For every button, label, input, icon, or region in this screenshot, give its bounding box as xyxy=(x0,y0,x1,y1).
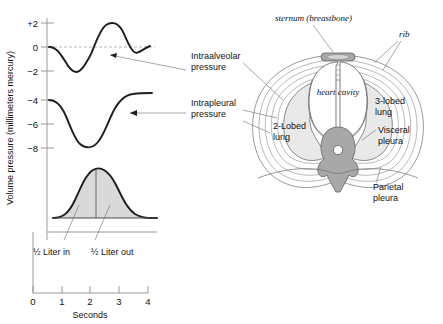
x-tick-label: 3 xyxy=(116,296,121,307)
intrapleural-to-diagram-leader xyxy=(243,110,277,118)
x-tick-label: 0 xyxy=(30,296,35,307)
tidal-volume-plot xyxy=(53,168,157,218)
parietal-pleura-label-line2: pleura xyxy=(373,193,398,203)
thorax-diagram-group: sternum (breastbone) rib heart cavity 2-… xyxy=(243,13,423,203)
lung-right-label-line2: lung xyxy=(375,107,392,117)
x-tick-label: 2 xyxy=(87,296,92,307)
x-tick-label: 4 xyxy=(145,296,150,307)
rib-label: rib xyxy=(399,29,410,39)
x-axis-label: Seconds xyxy=(72,310,108,320)
intrapleural-callout: Intrapleural pressure xyxy=(130,98,236,119)
figure-svg: Volume pressure (millimeters mercury) +2… xyxy=(0,0,443,324)
y-tick-group: +2 0 −2 −4 −6 −8 xyxy=(27,18,54,154)
lung-left-label-line1: 2-Lobed xyxy=(273,121,306,131)
lung-right-label-line1: 3-lobed xyxy=(375,96,405,106)
sternum-label: sternum (breastbone) xyxy=(275,13,352,23)
intraalveolar-callout: Intraalveolar pressure xyxy=(110,51,241,72)
intraalveolar-label-line2: pressure xyxy=(191,62,226,72)
liter-in-label: ½ Liter in xyxy=(33,247,70,257)
visceral-pleura-label-line1: Visceral xyxy=(378,125,410,135)
y-tick-label: −6 xyxy=(27,119,38,130)
liter-out-label: ½ Liter out xyxy=(91,247,134,257)
intraalveolar-pressure-curve xyxy=(49,23,150,72)
intrapleural-label-line2: pressure xyxy=(191,109,226,119)
intrapleural-arrowhead xyxy=(130,110,137,116)
y-tick-label: −8 xyxy=(27,143,38,154)
left-chart-group: Volume pressure (millimeters mercury) +2… xyxy=(5,18,241,321)
y-tick-label: −2 xyxy=(27,66,38,77)
y-tick-label: −4 xyxy=(27,95,38,106)
vertebra-shape xyxy=(318,127,358,192)
vertebral-foramen xyxy=(333,145,342,154)
sternum-callout: sternum (breastbone) xyxy=(275,13,352,52)
y-axis-label: Volume pressure (millimeters mercury) xyxy=(5,51,15,205)
intraalveolar-label-line1: Intraalveolar xyxy=(191,51,241,61)
parietal-pleura-label-line1: Parietal xyxy=(373,182,404,192)
pleura-secondary-leader xyxy=(243,121,270,133)
intrapleural-label-line1: Intrapleural xyxy=(191,98,236,108)
intrapleural-pressure-curve xyxy=(49,93,152,147)
rib-callout: rib xyxy=(374,29,410,70)
y-tick-label: +2 xyxy=(27,18,38,29)
lung-left-label-line2: lung xyxy=(273,132,290,142)
y-tick-label: 0 xyxy=(33,42,38,53)
x-tick-label: 1 xyxy=(59,296,64,307)
x-axis-group: 0 1 2 3 4 Seconds xyxy=(30,286,150,320)
figure-root: Volume pressure (millimeters mercury) +2… xyxy=(0,0,443,324)
visceral-pleura-label-line2: pleura xyxy=(378,136,403,146)
sternum-inner xyxy=(327,55,349,60)
heart-cavity-label: heart cavity xyxy=(317,87,360,97)
intraalveolar-arrowhead xyxy=(110,53,117,58)
